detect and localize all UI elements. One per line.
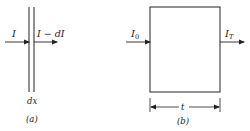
incident-intensity-label: I0	[130, 28, 139, 41]
figure-a: I I − dI dx (a)	[5, 7, 65, 124]
figure-b: I0 IT t (b)	[126, 7, 244, 126]
absorber-block	[150, 7, 220, 92]
output-intensity-label: I − dI	[36, 28, 65, 39]
caption-b: (b)	[177, 116, 189, 126]
diagram-canvas: I I − dI dx (a) I0 IT t (b)	[0, 0, 250, 131]
thickness-label: t	[181, 102, 185, 112]
caption-a: (a)	[26, 114, 38, 124]
thickness-label: dx	[27, 96, 37, 106]
input-intensity-label: I	[11, 28, 17, 39]
transmitted-intensity-label: IT	[224, 28, 234, 41]
